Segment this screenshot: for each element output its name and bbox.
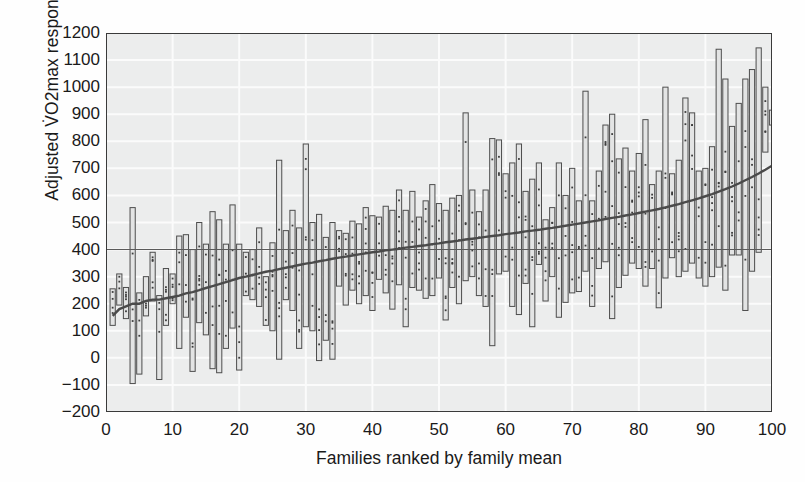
y-tick-label: 0 [44, 348, 100, 368]
x-axis-tick-labels: 0102030405060708090100 [0, 420, 805, 446]
y-tick-label: 600 [44, 185, 100, 205]
x-tick-label: 40 [363, 420, 382, 440]
x-tick-label: 70 [563, 420, 582, 440]
y-tick-label: 900 [44, 104, 100, 124]
y-tick-label: 100 [44, 321, 100, 341]
y-tick-label: −200 [44, 402, 100, 422]
x-tick-label: 90 [696, 420, 715, 440]
x-tick-label: 80 [629, 420, 648, 440]
x-tick-label: 100 [758, 420, 786, 440]
plot-area [106, 33, 772, 412]
y-axis-tick-labels: −200−10001002003004005006007008009001000… [38, 0, 100, 482]
x-tick-label: 30 [296, 420, 315, 440]
plot-svg [106, 33, 772, 412]
x-tick-label: 50 [430, 420, 449, 440]
x-tick-label: 60 [496, 420, 515, 440]
y-tick-label: 500 [44, 213, 100, 233]
y-tick-label: 300 [44, 267, 100, 287]
chart-figure: Adjusted V̇O2max response −200−100010020… [0, 0, 805, 482]
y-tick-label: 400 [44, 240, 100, 260]
x-tick-label: 20 [230, 420, 249, 440]
y-tick-label: 700 [44, 158, 100, 178]
x-axis-label-text: Families ranked by family mean [316, 448, 562, 468]
x-tick-label: 0 [101, 420, 110, 440]
y-tick-label: 1000 [44, 77, 100, 97]
y-tick-label: −100 [44, 375, 100, 395]
y-tick-label: 1200 [44, 23, 100, 43]
x-tick-label: 10 [163, 420, 182, 440]
x-axis-label: Families ranked by family mean [106, 448, 772, 469]
y-tick-label: 800 [44, 131, 100, 151]
y-tick-label: 200 [44, 294, 100, 314]
y-tick-label: 1100 [44, 50, 100, 70]
